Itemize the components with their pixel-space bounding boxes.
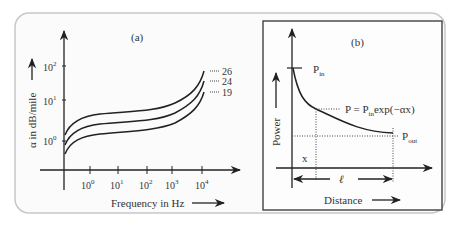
x-axis-label: Distance [324,194,363,206]
x-marker: x [302,152,308,164]
x-axis-label: Frequency in Hz [111,197,184,209]
panel-b-label: (b) [351,36,364,49]
figure: (a) α in dB/mile 102 101 100 100 101 102… [0,0,465,230]
y-axis-label: Power [270,118,282,146]
length-marker: ℓ [339,173,344,185]
y-axis-label: α in dB/mile [26,93,38,148]
curve-label: 19 [222,87,232,98]
panel-b: (b) Power Pin P = Pinexp(−αx) Pout x ℓ D… [263,21,442,210]
panel-a-label: (a) [131,31,144,44]
curve-label: 24 [222,76,232,87]
panel-b-frame [263,21,442,210]
